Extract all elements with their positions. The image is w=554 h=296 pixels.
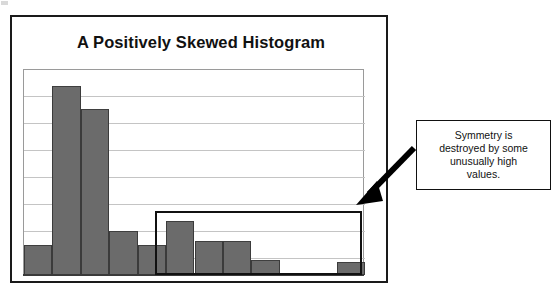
- callout-line-4: values.: [439, 168, 528, 181]
- histogram-bar: [52, 86, 80, 275]
- callout-line-1: Symmetry is: [439, 129, 528, 142]
- histogram-bar: [24, 245, 52, 275]
- scan-artifact: [1, 1, 8, 5]
- callout-text: Symmetry is destroyed by some unusually …: [433, 129, 534, 181]
- histogram-bar: [81, 109, 109, 275]
- histogram-bar: [109, 231, 137, 276]
- tail-highlight-rectangle: [155, 211, 362, 275]
- callout-line-2: destroyed by some: [439, 142, 528, 155]
- figure-canvas: A Positively Skewed Histogram Symmetry i…: [0, 0, 554, 296]
- callout-line-3: unusually high: [439, 155, 528, 168]
- callout-arrow-icon: [350, 140, 425, 212]
- page-title: A Positively Skewed Histogram: [12, 33, 390, 52]
- callout-textbox: Symmetry is destroyed by some unusually …: [416, 120, 551, 190]
